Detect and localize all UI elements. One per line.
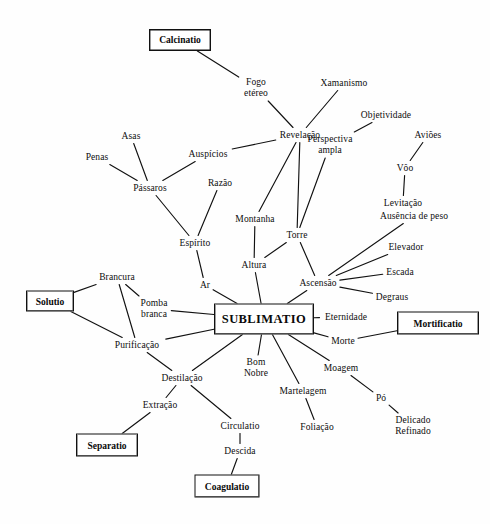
edge-morte-to-sublimatio	[314, 333, 328, 337]
edge-purificacao-to-sublimatio	[166, 329, 214, 339]
node-morte[interactable]: Morte	[331, 336, 355, 347]
node-circulatio[interactable]: Circulatio	[221, 421, 260, 432]
edge-ar-to-sublimatio	[213, 290, 237, 304]
node-perspectiva[interactable]: Perspectiva ampla	[308, 134, 353, 156]
edge-revelacao-to-montanha	[259, 143, 296, 212]
node-auspicios[interactable]: Auspícios	[189, 149, 228, 160]
node-altura[interactable]: Altura	[242, 260, 267, 271]
edge-asas-to-passaros	[134, 144, 148, 181]
stage-box-solutio[interactable]: Solutio	[26, 291, 74, 312]
node-extracao[interactable]: Extração	[143, 400, 178, 411]
edge-moagem-to-po	[351, 376, 373, 392]
edge-extracao-to-separatio	[122, 413, 150, 434]
node-delicado_refinado[interactable]: Delicado Refinado	[395, 415, 431, 437]
node-ascensao[interactable]: Ascensão	[299, 278, 336, 289]
node-objetividade[interactable]: Objetividade	[361, 110, 411, 121]
node-purificacao[interactable]: Purificação	[115, 340, 159, 351]
node-descida[interactable]: Descida	[224, 446, 255, 457]
node-voo[interactable]: Vôo	[397, 163, 414, 174]
edge-destilacao-to-sublimatio	[192, 335, 242, 371]
stage-box-coagulatio[interactable]: Coagulatio	[195, 475, 260, 498]
node-levitacao[interactable]: Levitação	[384, 198, 422, 209]
node-espirito[interactable]: Espírito	[180, 238, 211, 249]
edge-voo-to-levitacao	[403, 176, 404, 196]
edge-revelacao-to-auspicios	[232, 140, 276, 149]
edge-perspectiva-to-torre	[300, 158, 325, 228]
edge-brancura-to-purificacao	[119, 285, 135, 338]
node-foliacao[interactable]: Foliação	[300, 422, 334, 433]
edge-razao-to-espirito	[198, 191, 217, 236]
edge-torre-to-ascensao	[300, 243, 314, 276]
node-moagem[interactable]: Moagem	[324, 363, 358, 374]
node-ar[interactable]: Ar	[200, 280, 210, 291]
node-po[interactable]: Pó	[376, 393, 386, 404]
node-torre[interactable]: Torre	[287, 230, 308, 241]
node-fogo_etereo[interactable]: Fogo etéreo	[244, 77, 268, 99]
edge-espirito-to-ar	[197, 251, 203, 278]
edge-po-to-delicado_refinado	[389, 405, 398, 413]
edge-altura-to-sublimatio	[255, 273, 261, 304]
edge-montanha-to-altura	[254, 227, 255, 258]
node-montanha[interactable]: Montanha	[235, 214, 274, 225]
node-escada[interactable]: Escada	[386, 267, 414, 278]
node-brancura[interactable]: Brancura	[99, 272, 135, 283]
edge-xamanismo-to-revelacao	[306, 91, 337, 128]
node-elevador[interactable]: Elevador	[388, 242, 423, 253]
edge-passaros-to-espirito	[156, 196, 189, 236]
node-pomba_branca[interactable]: Pomba branca	[141, 298, 168, 320]
stage-box-separatio[interactable]: Separatio	[76, 434, 138, 457]
edge-avioes-to-voo	[410, 143, 423, 161]
stage-box-sublimatio[interactable]: SUBLIMATIO	[214, 304, 314, 335]
node-martelagem[interactable]: Martelagem	[280, 386, 327, 397]
edge-destilacao-to-circulatio	[191, 386, 231, 419]
node-penas[interactable]: Penas	[86, 152, 109, 163]
node-ausencia_peso[interactable]: Ausência de peso	[380, 211, 448, 222]
node-passaros[interactable]: Pássaros	[133, 183, 167, 194]
node-asas[interactable]: Asas	[122, 131, 141, 142]
edge-escada-to-ascensao	[340, 274, 383, 280]
node-avioes[interactable]: Aviões	[415, 130, 442, 141]
edge-penas-to-passaros	[110, 165, 137, 181]
edge-degraus-to-ascensao	[340, 287, 373, 293]
stage-box-calcinatio[interactable]: Calcinatio	[149, 29, 211, 51]
edge-auspicios-to-passaros	[163, 162, 195, 181]
edge-morte-to-mortificatio	[358, 331, 397, 338]
edge-objetividade-to-perspectiva	[354, 123, 372, 133]
edge-moagem-to-sublimatio	[288, 335, 329, 361]
edge-pomba_branca-to-sublimatio	[171, 311, 214, 315]
edge-solutio-to-purificacao	[71, 312, 122, 338]
node-xamanismo[interactable]: Xamanismo	[321, 78, 368, 89]
edge-fogo_etereo-to-revelacao	[268, 101, 293, 128]
concept-map-canvas: Fogo etéreoXamanismoObjetividadeRevelaçã…	[0, 0, 490, 524]
edge-torre-to-altura	[265, 243, 287, 258]
edge-martelagem-to-sublimatio	[272, 335, 299, 384]
node-eternidade[interactable]: Eternidade	[325, 312, 367, 323]
node-degraus[interactable]: Degraus	[376, 292, 408, 303]
edge-revelacao-to-torre	[297, 143, 300, 228]
edge-purificacao-to-destilacao	[147, 353, 172, 371]
edge-solutio-to-brancura	[74, 285, 96, 293]
node-destilacao[interactable]: Destilação	[161, 373, 202, 384]
edge-bom_nobre-to-sublimatio	[258, 335, 261, 356]
edge-ascensao-to-sublimatio	[287, 291, 307, 304]
stage-box-mortificatio[interactable]: Mortificatio	[397, 312, 479, 335]
edge-descida-to-coagulatio	[231, 459, 237, 475]
node-bom_nobre[interactable]: Bom Nobre	[244, 357, 268, 379]
edge-martelagem-to-foliacao	[306, 399, 314, 420]
edge-brancura-to-pomba_branca	[126, 285, 139, 297]
node-razao[interactable]: Razão	[208, 178, 232, 189]
edge-calcinatio-to-fogo_etereo	[197, 51, 238, 77]
edge-destilacao-to-extracao	[166, 386, 176, 398]
